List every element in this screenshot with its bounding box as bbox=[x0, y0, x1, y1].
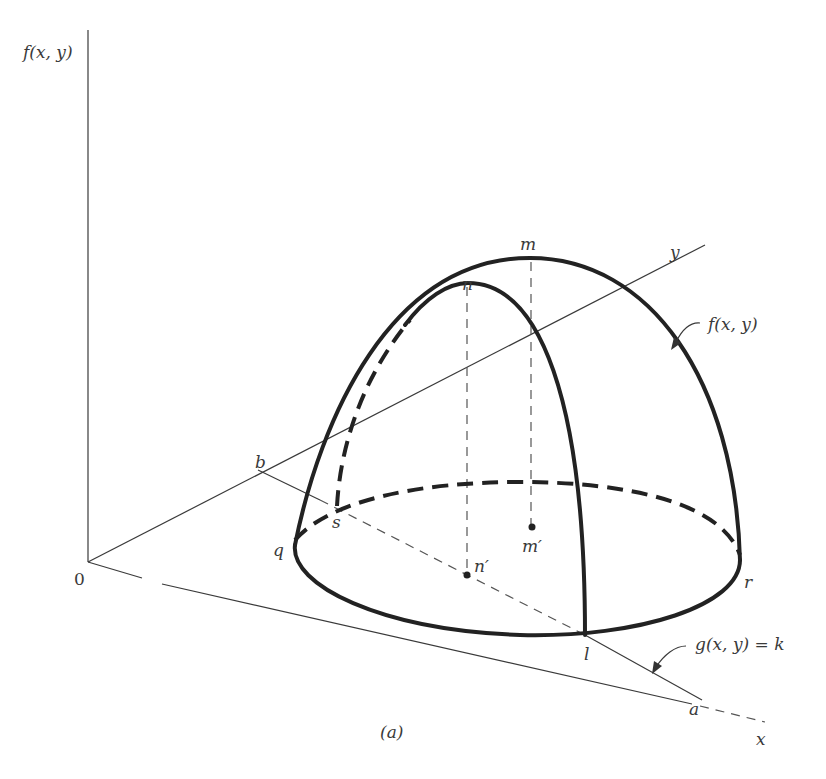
x-axis-label: x bbox=[756, 729, 766, 749]
f-axis-label: f(x, y) bbox=[21, 42, 73, 62]
x-axis-extension bbox=[700, 706, 765, 722]
n-prime-label: n′ bbox=[474, 556, 489, 576]
origin-label: 0 bbox=[74, 569, 85, 589]
m-prime-label: m′ bbox=[522, 536, 542, 556]
m-prime-point bbox=[529, 524, 536, 531]
constraint-annotation-arrow bbox=[656, 646, 686, 667]
surface-annotation-arrow bbox=[676, 323, 700, 342]
n-prime-point bbox=[464, 572, 471, 579]
surface-annotation-label: f(x, y) bbox=[706, 314, 758, 334]
surface-arrowhead-icon bbox=[671, 337, 681, 350]
m-label: m bbox=[520, 234, 536, 254]
l-label: l bbox=[584, 644, 589, 664]
constraint-line-solid-a bbox=[585, 635, 702, 700]
a-label: a bbox=[689, 699, 699, 719]
constrained-optimization-diagram: f(x, y) 0 y x m n m′ n′ q r s l a b f(x,… bbox=[0, 0, 826, 779]
base-ellipse-back bbox=[295, 482, 740, 555]
y-axis bbox=[88, 245, 705, 562]
b-label: b bbox=[255, 452, 266, 472]
constraint-curve-visible bbox=[405, 283, 585, 635]
r-label: r bbox=[744, 572, 753, 592]
n-label: n bbox=[462, 274, 473, 294]
figure-caption: (a) bbox=[380, 722, 403, 742]
constraint-line-dashed bbox=[320, 500, 585, 635]
constraint-arrowhead-icon bbox=[652, 661, 662, 674]
y-axis-label: y bbox=[669, 242, 680, 262]
q-label: q bbox=[273, 540, 284, 560]
base-ellipse-front bbox=[295, 545, 740, 635]
s-label: s bbox=[332, 512, 341, 532]
constraint-annotation-label: g(x, y) = k bbox=[695, 634, 785, 654]
